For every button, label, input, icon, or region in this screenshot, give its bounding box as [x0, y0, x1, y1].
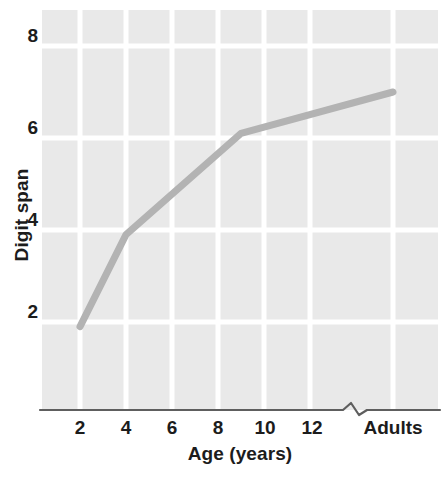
- x-tick-label-4: 4: [121, 418, 132, 437]
- x-tick-label-12: 12: [301, 418, 322, 437]
- chart-figure: Digit span 8 6: [0, 0, 445, 480]
- y-tick-label-2: 2: [4, 302, 38, 321]
- x-tick-label-10: 10: [254, 418, 275, 437]
- plot-area: [42, 10, 438, 410]
- axis-break-zigzag: [40, 403, 440, 415]
- x-tick-label-6: 6: [167, 418, 178, 437]
- x-tick-label-8: 8: [213, 418, 224, 437]
- y-tick-label-8: 8: [4, 26, 38, 45]
- x-tick-label-adults: Adults: [363, 418, 422, 437]
- x-tick-label-2: 2: [75, 418, 86, 437]
- plot-canvas: [42, 10, 438, 410]
- vertical-gridlines: [80, 10, 393, 410]
- x-axis-title: Age (years): [42, 443, 438, 465]
- y-tick-label-4: 4: [4, 210, 38, 229]
- y-tick-label-6: 6: [4, 118, 38, 137]
